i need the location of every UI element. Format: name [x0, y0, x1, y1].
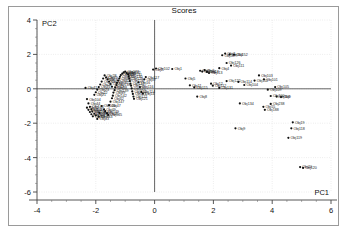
data-point [84, 87, 86, 89]
data-point-label: Obj21 [97, 93, 107, 97]
data-point-label: Obj9 [283, 95, 291, 99]
data-point-label: Obj188 [267, 108, 279, 112]
y-tick-label: 4 [27, 16, 31, 25]
data-point-label: Obj8 [199, 95, 207, 99]
data-point [129, 80, 131, 82]
data-point [226, 80, 228, 82]
data-point-label: Obj102 [257, 79, 269, 83]
data-point [287, 137, 289, 139]
data-point-label: Obj41 [88, 86, 98, 90]
data-point-label: Obj118 [294, 127, 305, 131]
data-point [152, 68, 154, 70]
y-tick-label: 2 [27, 50, 31, 59]
y-tick-label: -4 [24, 154, 31, 163]
data-point [221, 54, 223, 56]
data-point [239, 102, 241, 104]
scores-plot: -6-4-2024-4-20246ScoresPC2PC1Obj41Obj104… [0, 0, 348, 239]
data-point [196, 95, 198, 97]
data-point [267, 89, 269, 91]
data-point [140, 91, 142, 93]
data-point-label: Obj109 [270, 88, 282, 92]
data-point [212, 85, 214, 87]
data-point [226, 62, 228, 64]
data-point [145, 76, 147, 78]
data-point [132, 93, 134, 95]
data-point [131, 90, 133, 92]
data-point-label: Obj131 [221, 86, 233, 90]
data-point [218, 67, 220, 69]
data-point [292, 121, 294, 123]
chart-title: Scores [172, 6, 197, 15]
data-point [253, 79, 255, 81]
data-point [86, 98, 88, 100]
data-point-label: Obj102 [158, 67, 170, 71]
data-point-label: Obj119 [291, 136, 302, 140]
scores-scatter-figure: -6-4-2024-4-20246ScoresPC2PC1Obj41Obj104… [0, 0, 348, 239]
data-point [218, 87, 220, 89]
data-point [206, 71, 208, 73]
x-tick-label: -4 [34, 206, 41, 215]
data-point [233, 54, 235, 56]
data-point-label: Obj104 [246, 83, 258, 87]
data-point-label: Obj4 [221, 67, 229, 71]
data-point [127, 73, 129, 75]
data-point [302, 167, 304, 169]
data-point-label: Obj47 [111, 104, 121, 108]
data-point [184, 77, 186, 79]
data-point [137, 81, 139, 83]
data-point [133, 98, 135, 100]
data-point-label: Obj1 [174, 67, 182, 71]
data-point [224, 52, 226, 54]
data-point [129, 83, 131, 85]
data-point [234, 127, 236, 129]
data-point-label: Obj11 [192, 84, 201, 88]
y-tick-label: -6 [24, 188, 31, 197]
x-tick-label: 0 [153, 206, 157, 215]
data-point [237, 81, 239, 83]
x-tick-label: 2 [211, 206, 215, 215]
data-point [189, 84, 191, 86]
x-axis-label: PC1 [314, 188, 329, 197]
data-point [107, 114, 109, 116]
data-point [114, 89, 116, 91]
data-point [264, 109, 266, 111]
data-point [228, 53, 230, 55]
data-point [203, 69, 205, 71]
data-point-label: Obj113 [211, 71, 222, 75]
data-point [270, 95, 272, 97]
data-point [87, 102, 89, 104]
data-point [290, 127, 292, 129]
data-point [199, 70, 201, 72]
data-point [243, 84, 245, 86]
data-point [139, 86, 141, 88]
data-point-label: Obj9 [238, 127, 246, 131]
data-point [111, 97, 113, 99]
data-point-label: Obj5 [188, 77, 196, 81]
data-point [112, 91, 114, 93]
data-point-label: Obj19 [295, 121, 305, 125]
data-point-label: Obj145 [110, 113, 122, 117]
data-point [299, 166, 301, 168]
data-point [108, 104, 110, 106]
y-axis-label: PC2 [42, 19, 57, 28]
x-tick-label: 6 [329, 206, 333, 215]
data-point [171, 68, 173, 70]
data-point [101, 105, 103, 107]
data-point-label: Obj147 [113, 100, 125, 104]
data-point-label: Obj116 [142, 85, 153, 89]
data-point [210, 83, 212, 85]
y-tick-label: 0 [27, 85, 31, 94]
data-point-label: Obj121 [136, 97, 148, 101]
x-tick-label: 4 [270, 206, 274, 215]
data-point [280, 96, 282, 98]
data-point [130, 85, 132, 87]
data-point-label: Obj117 [148, 76, 159, 80]
data-point-label: Obj126 [229, 61, 241, 65]
data-point [86, 107, 88, 109]
data-point [128, 75, 130, 77]
y-tick-label: -2 [24, 119, 31, 128]
data-point [276, 95, 278, 97]
data-point-label: Obj14 [145, 92, 155, 96]
data-point [128, 77, 130, 79]
data-point-label: Obj134 [242, 102, 254, 106]
